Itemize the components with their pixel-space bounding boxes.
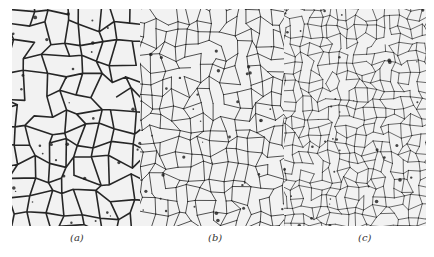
micrograph-figure: (a) (b) (c) [0,0,434,257]
micrograph-image [12,9,426,226]
panel-label-a: (a) [70,232,84,243]
panel-label-c: (c) [358,232,371,243]
grain-boundary-network [12,9,426,226]
panel-label-b: (b) [208,232,222,243]
